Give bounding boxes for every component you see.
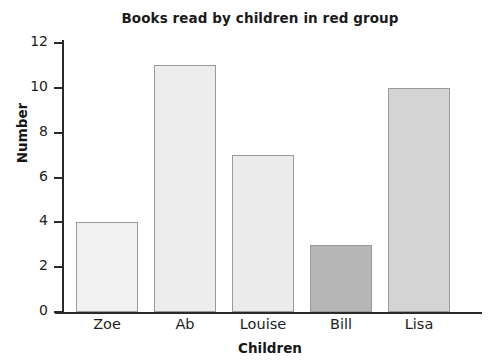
bar-ab bbox=[154, 65, 216, 312]
x-axis-title: Children bbox=[60, 340, 480, 356]
x-axis-line bbox=[55, 312, 482, 314]
chart-title: Books read by children in red group bbox=[0, 10, 490, 26]
bar-lisa bbox=[388, 88, 450, 312]
bar-zoe bbox=[76, 222, 138, 312]
x-tick-label-zoe: Zoe bbox=[76, 316, 138, 332]
x-tick-label-ab: Ab bbox=[154, 316, 216, 332]
x-tick-label-bill: Bill bbox=[310, 316, 372, 332]
bar-chart-figure: Books read by children in red group Numb… bbox=[0, 0, 490, 362]
x-tick-label-lisa: Lisa bbox=[388, 316, 450, 332]
bar-louise bbox=[232, 155, 294, 312]
x-tick-label-louise: Louise bbox=[232, 316, 294, 332]
bars-group bbox=[0, 43, 490, 312]
bar-bill bbox=[310, 245, 372, 312]
